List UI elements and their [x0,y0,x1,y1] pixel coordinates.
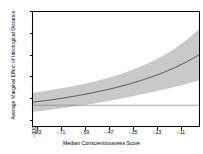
x-axis-title: Median Conscientiousness Score [0,140,203,146]
marginal-effects-chart: Average Marginal Effect of Ideological D… [0,0,203,154]
plot-area [32,11,200,127]
x-tick-label-047: -.47 [97,129,121,135]
x-tick-label-035: -.35 [121,129,145,135]
x-tick-label-011: -.11 [169,129,193,135]
y-axis-title: Average Marginal Effect of Ideological D… [10,0,16,130]
x-tick-label-071: -.71 [49,129,73,135]
x-tick-label-083: -.83 [25,129,49,135]
x-tick-label-059: -.59 [73,129,97,135]
x-tick-label-023: -.23 [145,129,169,135]
confidence-interval-band [33,29,199,111]
plot-svg [33,12,199,126]
